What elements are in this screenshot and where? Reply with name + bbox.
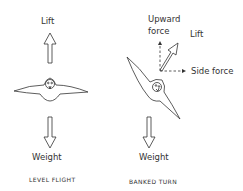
lift-label-level: Lift: [41, 17, 54, 26]
upward-force-arrowhead-icon: [158, 41, 162, 45]
lift-label-banked: Lift: [190, 30, 203, 39]
weight-arrow-level: [44, 117, 56, 148]
diagram-canvas: [0, 0, 243, 191]
lift-arrow-level: [44, 33, 56, 63]
side-force-label: Side force: [191, 67, 234, 76]
side-force-arrowhead-icon: [182, 69, 186, 73]
caption-level-flight: LEVEL FLIGHT: [29, 177, 75, 183]
upward-force-label-line2: force: [148, 27, 169, 36]
lift-arrow-banked: [160, 43, 178, 71]
bird-banked-turn: [127, 57, 180, 119]
caption-banked-turn: BANKED TURN: [129, 179, 177, 185]
upward-force-label-line1: Upward: [148, 15, 181, 24]
weight-label-level: Weight: [32, 153, 62, 162]
weight-arrow-banked: [143, 117, 155, 148]
bird-level-flight: [14, 78, 88, 101]
weight-label-banked: Weight: [139, 153, 169, 162]
